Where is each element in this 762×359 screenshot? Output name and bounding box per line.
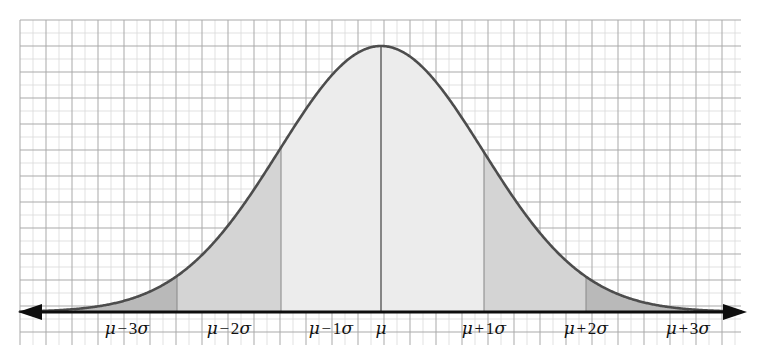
sigma-symbol: σ xyxy=(239,318,251,338)
operator-symbol: + xyxy=(575,319,588,338)
axis-label-mu-minus-3sigma: μ−3σ xyxy=(105,318,150,339)
axis-label-mu-plus-2sigma: μ+2σ xyxy=(564,318,609,339)
mu-symbol: μ xyxy=(105,318,116,338)
multiplier-number: 2 xyxy=(231,319,240,338)
axis-label-mu-minus-2sigma: μ−2σ xyxy=(207,318,252,339)
operator-symbol: − xyxy=(116,319,129,338)
mu-symbol: μ xyxy=(564,318,575,338)
multiplier-number: 3 xyxy=(690,319,699,338)
sigma-symbol: σ xyxy=(137,318,149,338)
operator-symbol: − xyxy=(320,319,333,338)
multiplier-number: 3 xyxy=(129,319,138,338)
operator-symbol: + xyxy=(473,319,486,338)
axis-label-mu-minus-1sigma: μ−1σ xyxy=(309,318,354,339)
sigma-symbol: σ xyxy=(494,318,506,338)
multiplier-number: 1 xyxy=(486,319,495,338)
mu-symbol: μ xyxy=(207,318,218,338)
mu-symbol: μ xyxy=(462,318,473,338)
mu-symbol: μ xyxy=(375,318,386,338)
sigma-symbol: σ xyxy=(698,318,710,338)
sigma-symbol: σ xyxy=(596,318,608,338)
mu-symbol: μ xyxy=(666,318,677,338)
sigma-divider-lines xyxy=(75,46,688,312)
sigma-symbol: σ xyxy=(341,318,353,338)
axis-label-mu-plus-3sigma: μ+3σ xyxy=(666,318,711,339)
operator-symbol: − xyxy=(218,319,231,338)
axis-label-mu-plus-1sigma: μ+1σ xyxy=(462,318,507,339)
axis-label-mu: μ xyxy=(375,318,386,339)
operator-symbol: + xyxy=(677,319,690,338)
sigma-band-minus-1-to-0-sigma xyxy=(281,40,381,312)
multiplier-number: 1 xyxy=(333,319,342,338)
bell-curve-figure: μ−3σμ−2σμ−1σμμ+1σμ+2σμ+3σ xyxy=(0,0,762,359)
multiplier-number: 2 xyxy=(588,319,597,338)
sigma-band-0-to-plus-1-sigma xyxy=(381,40,484,312)
mu-symbol: μ xyxy=(309,318,320,338)
bell-curve-chart xyxy=(0,0,762,359)
